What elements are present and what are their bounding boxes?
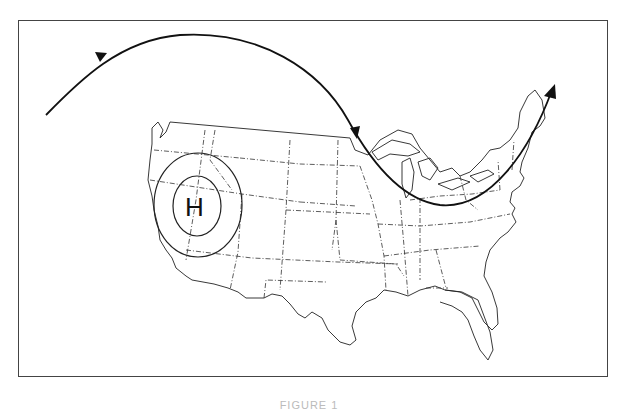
- us-coastline: [148, 90, 545, 345]
- florida-coast: [440, 290, 493, 360]
- jet-stream-line: [46, 35, 552, 206]
- arrow-icon: [544, 84, 556, 99]
- figure-caption: FIGURE 1: [0, 399, 618, 411]
- arrow-icon: [95, 52, 107, 62]
- state-boundaries: [150, 130, 514, 298]
- weather-map: [0, 0, 618, 411]
- great-lakes: [372, 140, 494, 198]
- high-pressure-label: H: [185, 192, 204, 223]
